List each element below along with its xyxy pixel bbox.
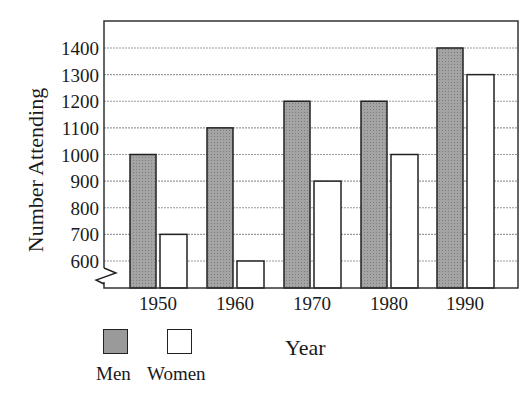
legend-label-women: Women [147, 363, 206, 385]
bar-men-1980 [361, 101, 387, 288]
y-tick-label: 1300 [61, 65, 99, 86]
bar-women-1970 [314, 181, 341, 288]
y-tick-label: 1200 [61, 91, 99, 112]
legend-label-men: Men [96, 363, 131, 385]
y-axis-label: Number Attending [6, 155, 66, 185]
y-tick-label: 900 [71, 171, 100, 192]
y-tick-label: 800 [71, 198, 100, 219]
x-tick-label: 1950 [139, 293, 177, 314]
bar-men-1990 [437, 48, 463, 288]
y-tick-label: 1000 [61, 145, 99, 166]
bar-men-1970 [284, 101, 310, 288]
y-tick-label: 1100 [62, 118, 99, 139]
x-axis-label: Year [285, 335, 326, 361]
bar-women-1950 [160, 234, 187, 288]
bar-men-1950 [130, 155, 156, 289]
y-tick-label: 1400 [61, 38, 99, 59]
bar-women-1990 [467, 75, 494, 288]
legend-swatch-men [103, 329, 128, 354]
legend-swatch-women [167, 329, 192, 354]
axis-break-mask [102, 268, 106, 282]
x-tick-label: 1960 [216, 293, 254, 314]
y-tick-label: 700 [71, 224, 100, 245]
bar-men-1960 [207, 128, 233, 288]
y-axis-label-text: Number Attending [23, 88, 49, 252]
x-tick-label: 1980 [370, 293, 408, 314]
bar-women-1960 [237, 261, 264, 288]
x-tick-label: 1990 [446, 293, 484, 314]
bar-women-1980 [391, 155, 418, 289]
plot-area: 6007008009001000110012001300140019501960… [0, 0, 532, 395]
y-tick-label: 600 [71, 251, 100, 272]
bar-chart: 6007008009001000110012001300140019501960… [0, 0, 532, 395]
x-tick-label: 1970 [293, 293, 331, 314]
